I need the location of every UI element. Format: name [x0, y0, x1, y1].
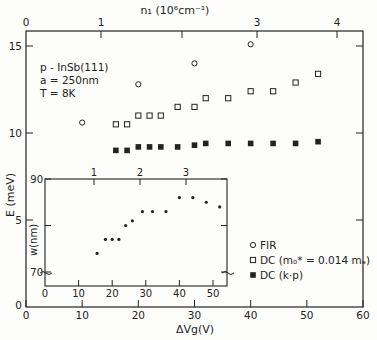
data-point: [248, 89, 253, 94]
legend-marker: [250, 272, 256, 278]
data-point: [203, 141, 209, 147]
data-point: [147, 144, 153, 150]
inset-y-tick-label: 90: [30, 174, 43, 185]
y-axis-title: E (meV): [4, 173, 17, 217]
annotation-sample: p - InSb(111): [40, 61, 108, 73]
main-data-points: [80, 42, 321, 154]
data-point: [136, 144, 142, 150]
inset-x-tick-label: 20: [106, 288, 119, 299]
inset-data-point: [117, 238, 120, 241]
data-point: [248, 141, 254, 147]
inset-data-point: [104, 238, 107, 241]
data-point: [192, 61, 197, 66]
data-point: [147, 113, 152, 118]
inset-x-tick-label: 40: [173, 288, 186, 299]
inset-data-point: [95, 252, 98, 255]
top-axis-title: n₁ (10⁶cm⁻¹): [141, 4, 210, 17]
inset-x-tick-label: 10: [72, 288, 85, 299]
data-point: [192, 142, 198, 148]
data-point: [158, 144, 164, 150]
inset-data-point: [141, 210, 144, 213]
data-point: [271, 89, 276, 94]
inset-top-tick-label: 2: [137, 167, 143, 178]
x-tick-label: 60: [356, 309, 369, 321]
x-tick-label: 30: [188, 309, 201, 321]
inset-top-tick-label: 3: [183, 167, 189, 178]
chart-canvas: 01020304050600510150134 0102030405070901…: [0, 0, 377, 340]
data-point: [315, 139, 321, 145]
inset-chart: 010203040507090123: [30, 167, 234, 299]
x-tick-label: 40: [244, 309, 257, 321]
inset-data-point: [205, 201, 208, 204]
inset-data-point: [151, 210, 154, 213]
inset-data-point: [131, 219, 134, 222]
legend-marker: [250, 242, 255, 247]
inset-frame: [45, 179, 227, 286]
inset-y-axis-title: w(nm): [28, 224, 39, 256]
inset-data-point: [191, 196, 194, 199]
top-tick-label: 4: [334, 16, 341, 28]
legend: [250, 242, 256, 277]
data-point: [248, 42, 253, 47]
legend-label-dc-kp: DC (k·p): [260, 269, 303, 281]
legend-marker: [250, 257, 255, 262]
inset-top-tick-label: 1: [91, 167, 97, 178]
data-point: [293, 141, 299, 147]
inset-data-point: [124, 224, 127, 227]
data-point: [226, 96, 231, 101]
legend-label-dc-mass: DC (m₀* = 0.014 mₑ): [260, 254, 370, 266]
top-tick-label: 3: [254, 16, 261, 28]
data-point: [113, 148, 119, 154]
annotation-size: a = 250nm: [40, 74, 99, 86]
x-tick-label: 50: [300, 309, 313, 321]
inset-x-tick-label: 30: [139, 288, 152, 299]
inset-data-point: [111, 238, 114, 241]
inset-data-point: [164, 210, 167, 213]
data-point: [125, 122, 130, 127]
inset-data-point: [178, 196, 181, 199]
data-point: [315, 71, 320, 76]
data-point: [293, 80, 298, 85]
y-tick-label: 15: [9, 40, 22, 52]
top-tick-label: 0: [23, 16, 30, 28]
annotation-temperature: T = 8K: [39, 87, 77, 99]
data-point: [158, 113, 163, 118]
inset-data-point: [218, 205, 221, 208]
inset-x-tick-label: 0: [42, 288, 48, 299]
data-point: [175, 104, 180, 109]
data-point: [113, 122, 118, 127]
data-point: [80, 120, 85, 125]
x-tick-label: 20: [132, 309, 145, 321]
data-point: [225, 141, 231, 147]
top-tick-label: 1: [98, 16, 105, 28]
y-tick-label: 10: [9, 127, 22, 139]
data-point: [124, 148, 130, 154]
x-axis-title: ΔVg(V): [176, 323, 214, 336]
x-tick-label: 0: [23, 309, 30, 321]
inset-x-tick-label: 50: [207, 288, 220, 299]
figure: 01020304050600510150134 0102030405070901…: [0, 0, 377, 340]
legend-label-fir: FIR: [260, 239, 276, 251]
y-tick-label: 0: [15, 299, 22, 311]
data-point: [136, 82, 141, 87]
data-point: [136, 113, 141, 118]
x-tick-label: 10: [75, 309, 88, 321]
data-point: [270, 141, 276, 147]
data-point: [203, 96, 208, 101]
data-point: [175, 144, 181, 150]
data-point: [192, 104, 197, 109]
